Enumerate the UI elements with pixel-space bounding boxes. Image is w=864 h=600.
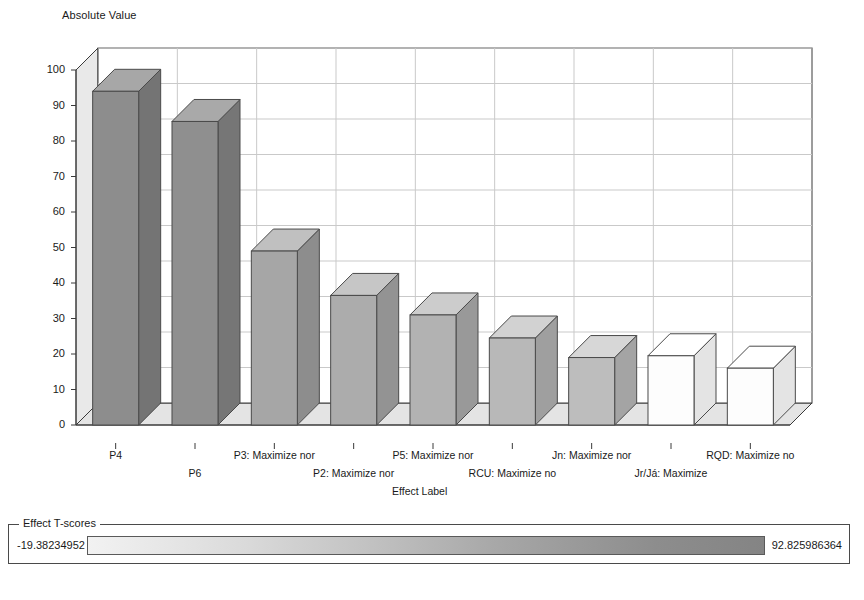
plot-canvas [0,0,864,515]
x-tick-label: Jn: Maximize nor [522,450,662,461]
bar-4[interactable] [410,293,478,425]
legend-min-value: -19.38234952 [17,539,85,551]
bar-8[interactable] [727,346,795,425]
legend-max-value: 92.825986364 [772,539,842,551]
y-tick-label: 20 [31,348,65,359]
bar-5[interactable] [489,316,557,425]
bar-2[interactable] [251,229,319,425]
pareto-chart-page: Absolute Value 1009080706050403020100 P4… [0,0,864,600]
y-tick-label: 30 [31,313,65,324]
x-tick-label: P3: Maximize nor [204,450,344,461]
x-tick-label: Jr/Já: Maximize [601,468,741,479]
bar-6[interactable] [569,336,637,425]
x-axis-title: Effect Label [392,485,447,497]
bar-1[interactable] [172,99,240,425]
x-tick-label: P2: Maximize nor [284,468,424,479]
y-tick-label: 70 [31,171,65,182]
x-tick-label: P6 [125,468,265,479]
y-tick-label: 0 [31,419,65,430]
y-tick-label: 60 [31,206,65,217]
x-tick-label: P4 [46,450,186,461]
legend-title: Effect T-scores [19,517,100,529]
x-tick-label: P5: Maximize nor [363,450,503,461]
y-tick-label: 80 [31,135,65,146]
bar-7[interactable] [648,334,716,425]
y-tick-label: 90 [31,100,65,111]
bar-0[interactable] [93,69,161,425]
y-tick-label: 40 [31,277,65,288]
chart-area: Absolute Value 1009080706050403020100 P4… [0,0,864,515]
y-tick-label: 10 [31,384,65,395]
legend-panel: Effect T-scores -19.38234952 92.82598636… [8,524,850,564]
x-tick-label: RQD: Maximize no [680,450,820,461]
y-tick-label: 50 [31,242,65,253]
y-tick-label: 100 [31,64,65,75]
x-tick-label: RCU: Maximize no [442,468,582,479]
bar-3[interactable] [331,273,399,425]
legend-color-gradient [87,536,765,555]
